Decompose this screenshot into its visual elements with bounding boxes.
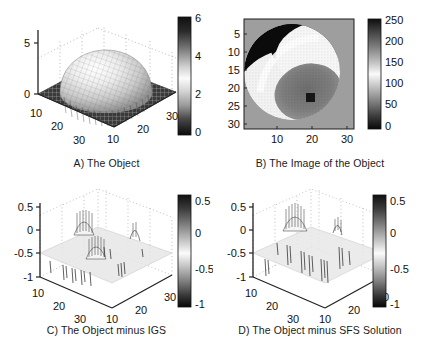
z-tick-a-0: 5 <box>24 37 30 49</box>
z-tick-d-3: -1 <box>236 271 246 283</box>
z-tick-c-0: 0.5 <box>18 201 33 213</box>
y-tick-b-2: 15 <box>228 64 240 76</box>
colorbar-a-tick-1: 4 <box>195 50 201 62</box>
y-tick-c-0: 10 <box>32 287 44 299</box>
colorbar-b-tick-3: 100 <box>385 77 403 89</box>
colorbar-d: 0.5 0 -0.5 -1 <box>373 195 409 310</box>
x-tick-b-0: 10 <box>271 133 283 145</box>
panel-c-caption: C) The Object minus IGS <box>0 324 213 336</box>
colorbar-d-tick-1: 0 <box>390 227 396 239</box>
colorbar-d-tick-0: 0.5 <box>390 195 405 207</box>
surface-plot-d: 0.5 0 -0.5 -1 10 20 30 10 20 30 0.5 0 -0… <box>213 177 427 327</box>
colorbar-b-tick-1: 200 <box>385 35 403 47</box>
residual-sheet-d <box>253 227 385 283</box>
colorbar-a-tick-2: 2 <box>195 88 201 100</box>
colorbar-a: 6 4 2 0 <box>178 12 201 138</box>
z-tick-c-3: -1 <box>23 271 33 283</box>
y-tick-c-1: 20 <box>53 300 65 312</box>
y-axis-d <box>253 277 325 308</box>
panel-a-caption: A) The Object <box>0 157 213 169</box>
x-tick-b-1: 20 <box>306 133 318 145</box>
image-plot-b: 5 10 15 20 25 30 10 20 30 250 <box>213 0 427 160</box>
y-tick-a-0: 10 <box>30 107 42 119</box>
colorbar-c-tick-1: 0 <box>195 227 201 239</box>
y-tick-b-4: 25 <box>228 100 240 112</box>
x-tick-d-1: 20 <box>348 304 360 316</box>
panel-b: 5 10 15 20 25 30 10 20 30 250 <box>213 0 427 177</box>
z-tick-d-0: 0.5 <box>231 201 246 213</box>
colorbar-c-tick-3: -1 <box>195 298 205 310</box>
x-tick-c-1: 20 <box>135 304 147 316</box>
colorbar-c: 0.5 0 -0.5 -1 <box>178 195 213 310</box>
residual-sheet-c <box>40 227 172 283</box>
panel-b-plot: 5 10 15 20 25 30 10 20 30 250 <box>213 0 427 177</box>
y-tick-a-2: 30 <box>73 134 85 146</box>
colorbar-b-tick-2: 150 <box>385 56 403 68</box>
y-tick-b-3: 20 <box>228 82 240 94</box>
z-tick-d-1: 0 <box>240 224 246 236</box>
colorbar-a-tick-0: 6 <box>195 12 201 24</box>
y-tick-d-1: 20 <box>266 300 278 312</box>
surface-plot-a: 5 0 10 20 30 10 20 30 6 4 2 0 <box>0 0 213 160</box>
z-tick-a-1: 0 <box>24 88 30 100</box>
x-tick-a-0: 10 <box>107 133 119 145</box>
z-tick-c-2: -0.5 <box>14 247 33 259</box>
y-tick-b-5: 30 <box>228 118 240 130</box>
x-tick-b-2: 30 <box>341 133 353 145</box>
panel-a: 5 0 10 20 30 10 20 30 6 4 2 0 <box>0 0 213 177</box>
panel-c: 0.5 0 -0.5 -1 10 20 30 10 20 30 0.5 0 <box>0 177 213 354</box>
panel-b-caption: B) The Image of the Object <box>213 157 427 169</box>
y-tick-b-1: 10 <box>228 46 240 58</box>
z-tick-d-2: -0.5 <box>227 247 246 259</box>
panel-a-plot: 5 0 10 20 30 10 20 30 6 4 2 0 <box>0 0 213 177</box>
surface-plot-c: 0.5 0 -0.5 -1 10 20 30 10 20 30 0.5 0 <box>0 177 213 327</box>
colorbar-b: 250 200 150 100 50 0 <box>368 14 403 132</box>
colorbar-b-tick-4: 50 <box>385 98 397 110</box>
z-tick-c-1: 0 <box>27 224 33 236</box>
colorbar-c-tick-0: 0.5 <box>195 195 210 207</box>
colorbar-d-tick-3: -1 <box>390 298 400 310</box>
colorbar-b-tick-5: 0 <box>385 120 391 132</box>
x-tick-a-2: 30 <box>166 110 178 122</box>
figure-grid: 5 0 10 20 30 10 20 30 6 4 2 0 <box>0 0 427 354</box>
x-tick-a-1: 20 <box>137 123 149 135</box>
y-tick-d-0: 10 <box>245 287 257 299</box>
x-tick-c-2: 30 <box>164 291 176 303</box>
colorbar-b-tick-0: 250 <box>385 14 403 26</box>
panel-d-caption: D) The Object minus SFS Solution <box>213 324 427 336</box>
y-tick-b-0: 5 <box>234 28 240 40</box>
colorbar-d-tick-2: -0.5 <box>390 263 409 275</box>
colorbar-a-tick-3: 0 <box>195 126 201 138</box>
y-axis-c <box>40 277 112 308</box>
panel-d: 0.5 0 -0.5 -1 10 20 30 10 20 30 0.5 0 -0… <box>213 177 427 354</box>
colorbar-c-tick-2: -0.5 <box>195 263 213 275</box>
y-tick-a-1: 20 <box>51 120 63 132</box>
